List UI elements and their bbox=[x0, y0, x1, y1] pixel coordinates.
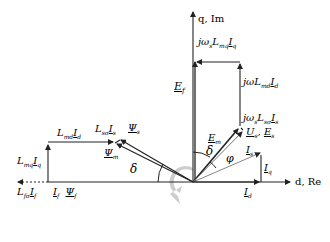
psi-m-vector bbox=[117, 144, 193, 182]
lfs-if-label: LfσIf bbox=[17, 186, 36, 199]
lmd-id-label: LmdId bbox=[57, 127, 81, 140]
iq-label: Iq bbox=[264, 162, 272, 175]
if-psif-label: If Ψf bbox=[53, 186, 77, 199]
jw-lss-is-label: jωsLsσIs bbox=[243, 112, 278, 125]
is-label: Is bbox=[246, 144, 253, 157]
ef-label: Ef bbox=[174, 80, 185, 95]
phi-label: φ bbox=[226, 152, 234, 165]
lss-is-label: LsσIs bbox=[95, 123, 116, 136]
psi-m-label: Ψm bbox=[104, 147, 118, 160]
delta-lower-label: δ bbox=[130, 162, 137, 176]
d-axis-label: d, Re bbox=[295, 176, 321, 187]
jw-lss-is-vector bbox=[241, 128, 243, 130]
jw-lmq-iq-label: jωsLmqIq bbox=[198, 36, 236, 49]
us-es-label: Us, Es bbox=[246, 126, 274, 139]
lss-is-vector bbox=[115, 140, 120, 143]
psi-s-label: Ψs bbox=[128, 122, 140, 135]
lmq-iq-label: LmqIq bbox=[17, 155, 41, 168]
jw-lmd-id-label: jωLmdId bbox=[243, 76, 278, 89]
phasor-diagram bbox=[0, 0, 330, 242]
id-label: Id bbox=[244, 186, 252, 199]
phi-arc bbox=[210, 162, 216, 168]
delta-upper-label: δ bbox=[206, 144, 213, 158]
q-axis-label: q, Im bbox=[198, 13, 224, 24]
